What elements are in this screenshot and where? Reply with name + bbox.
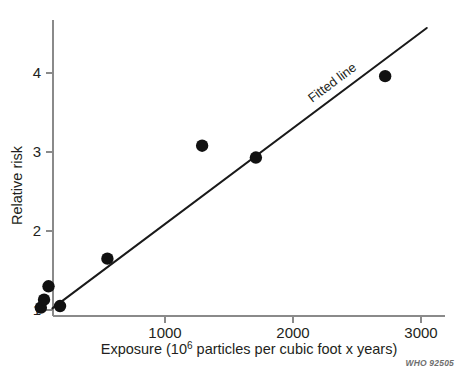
x-tick-label: 3000	[404, 324, 437, 341]
x-tick-label: 2000	[276, 324, 309, 341]
x-axis-ticks: 100020003000	[148, 316, 437, 341]
y-tick-label: 2	[33, 222, 41, 239]
data-point	[42, 280, 54, 292]
data-point	[379, 70, 391, 82]
data-point	[54, 300, 66, 312]
data-point	[38, 294, 50, 306]
x-axis-title-after: particles per cubic foot x years)	[193, 341, 398, 357]
data-points-group	[35, 70, 392, 314]
data-point	[196, 139, 208, 151]
y-axis-ticks: 1234	[33, 64, 53, 318]
who-credit-label: WHO 92505	[405, 358, 454, 368]
y-axis-title: Relative risk	[9, 145, 25, 225]
scatter-plot: 1234 100020003000 Fitted line Relative r…	[0, 0, 462, 380]
y-tick-label: 3	[33, 143, 41, 160]
x-axis-title-before: Exposure (10	[101, 341, 187, 357]
data-point	[101, 252, 113, 264]
x-axis-title: Exposure (106 particles per cubic foot x…	[101, 340, 398, 357]
fitted-line	[52, 28, 426, 308]
data-point	[250, 151, 262, 163]
chart-page: 1234 100020003000 Fitted line Relative r…	[0, 0, 462, 380]
y-tick-label: 4	[33, 64, 41, 81]
x-tick-label: 1000	[148, 324, 181, 341]
